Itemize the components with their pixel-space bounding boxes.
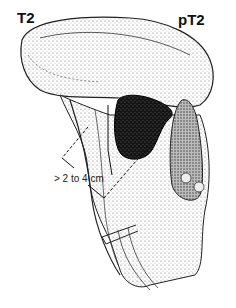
anatomical-drawing — [0, 0, 236, 308]
measurement-label: > 2 to 4 cm — [54, 174, 104, 184]
figure-canvas: T2 pT2 > 2 to 4 cm — [0, 0, 236, 308]
tongue-shape — [21, 17, 213, 107]
stage-label-pt2: pT2 — [178, 12, 205, 27]
stage-label-t2: T2 — [17, 10, 35, 25]
